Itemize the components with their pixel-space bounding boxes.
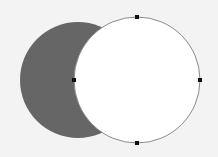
crescent-shape[interactable] (20, 22, 136, 138)
anchor-right-handle[interactable] (198, 78, 202, 82)
drawing-canvas[interactable] (0, 0, 218, 157)
anchor-top-handle[interactable] (135, 15, 139, 19)
vector-artboard[interactable] (0, 0, 218, 157)
anchor-bottom-handle[interactable] (135, 141, 139, 145)
anchor-left-handle[interactable] (72, 78, 76, 82)
